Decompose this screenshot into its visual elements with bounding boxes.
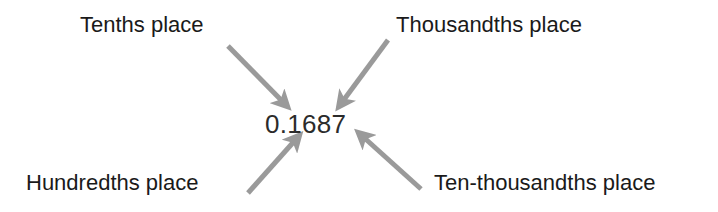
arrow-thousandths bbox=[340, 40, 388, 105]
label-ten-thousandths-place: Ten-thousandths place bbox=[434, 172, 655, 194]
place-value-figure: Tenths place Thousandths place Hundredth… bbox=[0, 0, 718, 212]
arrow-ten-thousandths bbox=[360, 134, 421, 189]
arrow-hundredths bbox=[248, 137, 298, 193]
label-tenths-place: Tenths place bbox=[80, 14, 204, 36]
arrow-tenths bbox=[228, 46, 286, 105]
decimal-number: 0.1687 bbox=[265, 111, 346, 137]
label-hundredths-place: Hundredths place bbox=[26, 172, 198, 194]
label-thousandths-place: Thousandths place bbox=[396, 14, 582, 36]
